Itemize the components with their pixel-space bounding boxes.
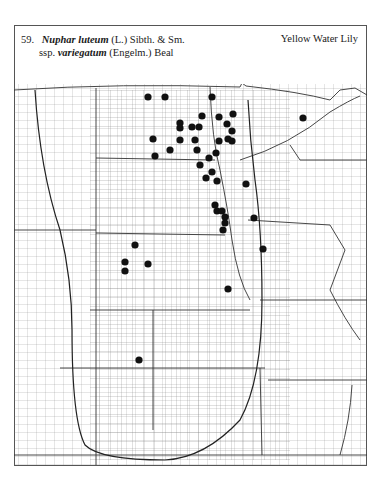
occurrence-dot bbox=[196, 161, 203, 168]
occurrence-dot bbox=[229, 110, 236, 117]
occurrence-dot bbox=[144, 93, 151, 100]
occurrence-dot bbox=[242, 180, 249, 187]
occurrence-dot bbox=[193, 146, 200, 153]
occurrence-dot bbox=[166, 146, 173, 153]
occurrence-dot bbox=[212, 149, 219, 156]
occurrence-dot bbox=[259, 245, 266, 252]
county-boundaries bbox=[14, 83, 367, 465]
occurrence-dot bbox=[135, 356, 142, 363]
occurrence-dot bbox=[188, 123, 195, 130]
occurrence-dot bbox=[228, 137, 235, 144]
occurrence-dot bbox=[161, 93, 168, 100]
occurrence-dot bbox=[198, 112, 205, 119]
occurrence-dot bbox=[250, 214, 257, 221]
occurrence-dot bbox=[208, 93, 215, 100]
occurrence-dot bbox=[228, 127, 235, 134]
occurrence-dot bbox=[195, 123, 202, 130]
occurrence-dot bbox=[176, 124, 183, 131]
occurrence-dot bbox=[215, 113, 222, 120]
occurrence-dot bbox=[121, 258, 128, 265]
occurrence-dot bbox=[208, 168, 215, 175]
occurrence-dot bbox=[215, 137, 222, 144]
occurrence-dot bbox=[219, 226, 226, 233]
occurrence-dot bbox=[176, 136, 183, 143]
occurrence-dot bbox=[131, 241, 138, 248]
occurrence-dot bbox=[299, 114, 306, 121]
occurrence-dot bbox=[202, 174, 209, 181]
occurrence-dot bbox=[205, 154, 212, 161]
occurrence-dot bbox=[221, 219, 228, 226]
occurrence-dot bbox=[191, 136, 198, 143]
occurrence-dot bbox=[151, 152, 158, 159]
occurrence-dot bbox=[223, 120, 230, 127]
distribution-map bbox=[0, 0, 378, 491]
occurrence-dot bbox=[144, 260, 151, 267]
occurrence-dot bbox=[213, 177, 220, 184]
occurrence-dot bbox=[149, 135, 156, 142]
occurrence-dot bbox=[224, 285, 231, 292]
occurrence-dot bbox=[121, 267, 128, 274]
